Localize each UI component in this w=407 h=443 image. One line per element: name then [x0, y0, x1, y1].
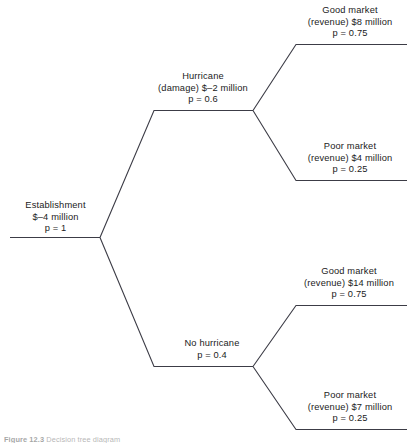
node-hurricane-good-name: Good market: [294, 5, 406, 17]
node-hurricane-good-value: (revenue) $8 million: [294, 17, 406, 29]
node-hurricane-value: (damage) $–2 million: [153, 83, 253, 95]
decision-tree-figure: Establishment $–4 million p = 1 Hurrican…: [0, 0, 407, 443]
node-label-hurricane-good-market: Good market (revenue) $8 million p = 0.7…: [294, 5, 406, 40]
node-no-hurricane-poor-probability: p = 0.25: [294, 413, 406, 425]
node-establishment-value: $–4 million: [13, 212, 98, 224]
node-no-hurricane-name: No hurricane: [170, 338, 254, 350]
edge-no-hurricane-to-good-market: [253, 306, 407, 367]
node-no-hurricane-probability: p = 0.4: [170, 350, 254, 362]
node-no-hurricane-good-value: (revenue) $14 million: [292, 278, 406, 290]
node-label-hurricane-poor-market: Poor market (revenue) $4 million p = 0.2…: [294, 141, 406, 176]
node-no-hurricane-poor-name: Poor market: [294, 390, 406, 402]
node-no-hurricane-good-probability: p = 0.75: [292, 289, 406, 301]
figure-caption: Figure 12.3 Decision tree diagram: [4, 435, 120, 443]
node-label-no-hurricane: No hurricane p = 0.4: [170, 338, 254, 361]
node-label-hurricane: Hurricane (damage) $–2 million p = 0.6: [153, 71, 253, 106]
node-label-establishment: Establishment $–4 million p = 1: [13, 200, 98, 235]
figure-caption-number: Figure 12.3: [4, 435, 44, 443]
node-label-no-hurricane-poor-market: Poor market (revenue) $7 million p = 0.2…: [294, 390, 406, 425]
node-hurricane-poor-probability: p = 0.25: [294, 164, 406, 176]
node-establishment-name: Establishment: [13, 200, 98, 212]
node-no-hurricane-good-name: Good market: [292, 266, 406, 278]
node-hurricane-poor-name: Poor market: [294, 141, 406, 153]
node-establishment-probability: p = 1: [13, 223, 98, 235]
figure-caption-text: Decision tree diagram: [46, 435, 120, 443]
node-no-hurricane-poor-value: (revenue) $7 million: [294, 402, 406, 414]
edge-hurricane-to-good-market: [253, 45, 407, 111]
node-hurricane-poor-value: (revenue) $4 million: [294, 153, 406, 165]
node-hurricane-probability: p = 0.6: [153, 94, 253, 106]
node-hurricane-name: Hurricane: [153, 71, 253, 83]
edge-root-to-hurricane: [100, 111, 253, 238]
node-hurricane-good-probability: p = 0.75: [294, 28, 406, 40]
node-label-no-hurricane-good-market: Good market (revenue) $14 million p = 0.…: [292, 266, 406, 301]
